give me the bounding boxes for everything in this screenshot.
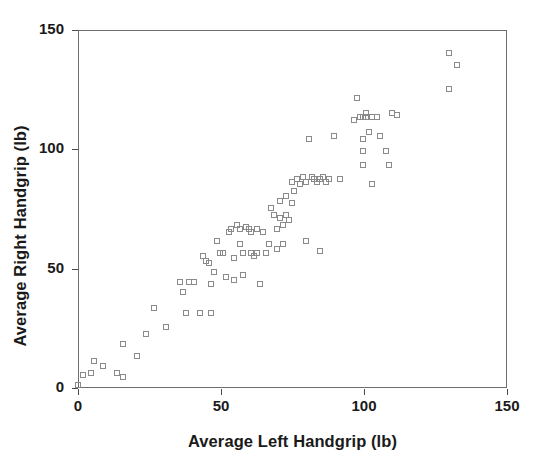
data-point [394,112,400,118]
data-point [354,95,360,101]
x-tick-label: 100 [339,397,389,414]
data-point [143,331,149,337]
data-point [214,238,220,244]
y-tick-label: 0 [0,378,64,395]
data-point [286,217,292,223]
data-point [220,250,226,256]
data-point [446,50,452,56]
data-point [75,382,81,388]
plot-data-area [78,30,507,388]
y-tick-mark [72,30,78,31]
data-point [303,238,309,244]
data-point [223,274,229,280]
y-tick-label: 150 [0,20,64,37]
data-point [366,129,372,135]
data-point [88,370,94,376]
y-tick-label: 50 [0,259,64,276]
data-point [383,148,389,154]
data-point [211,269,217,275]
data-point [120,374,126,380]
data-point [180,289,186,295]
data-point [291,188,297,194]
data-point [360,136,366,142]
x-tick-mark [78,389,79,395]
y-tick-label: 100 [0,139,64,156]
data-point [206,260,212,266]
data-point [208,310,214,316]
data-point [134,353,140,359]
data-point [377,133,383,139]
x-tick-label: 0 [53,397,103,414]
data-point [191,279,197,285]
data-point [283,193,289,199]
x-tick-mark [507,389,508,395]
data-point [197,310,203,316]
data-point [306,136,312,142]
scatter-plot-figure: Average Right Handgrip (lb) 050100150 05… [0,0,547,472]
data-point [446,86,452,92]
data-point [237,241,243,247]
data-point [266,241,272,247]
data-point [337,176,343,182]
data-point [240,250,246,256]
y-tick-mark [72,149,78,150]
x-tick-label: 150 [482,397,532,414]
data-point [257,281,263,287]
x-axis-label: Average Left Handgrip (lb) [78,432,507,451]
data-point [268,205,274,211]
data-point [183,310,189,316]
data-point [360,162,366,168]
data-point [208,281,214,287]
data-point [80,372,86,378]
data-point [289,200,295,206]
data-point [360,148,366,154]
data-point [260,229,266,235]
data-point [386,162,392,168]
data-point [151,305,157,311]
data-point [177,279,183,285]
y-tick-mark [72,269,78,270]
data-point [231,277,237,283]
data-point [231,255,237,261]
data-point [369,181,375,187]
data-point [91,358,97,364]
data-point [263,250,269,256]
data-point [317,248,323,254]
y-axis-label: Average Right Handgrip (lb) [0,0,40,472]
data-point [280,241,286,247]
data-point [326,176,332,182]
data-point [163,324,169,330]
data-point [331,133,337,139]
y-tick-mark [72,388,78,389]
data-point [254,250,260,256]
data-point [120,341,126,347]
data-point [100,363,106,369]
data-point [240,272,246,278]
x-tick-label: 50 [196,397,246,414]
x-tick-mark [221,389,222,395]
x-tick-mark [364,389,365,395]
data-point [374,114,380,120]
data-point [454,62,460,68]
